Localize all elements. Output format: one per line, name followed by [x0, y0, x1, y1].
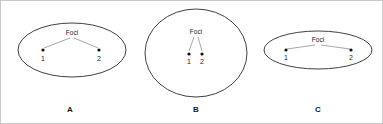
- leader-line-a-1: [44, 38, 70, 48]
- panel-b: Foci 1 2 B: [145, 9, 247, 114]
- foci-label-a: Foci: [66, 29, 78, 36]
- focus-dot-a-2: [97, 48, 100, 51]
- panel-c: Foci 1 2 C: [264, 31, 372, 114]
- focus-number-c-2: 2: [349, 54, 353, 61]
- focus-number-b-2: 2: [200, 58, 204, 65]
- focus-number-c-1: 1: [284, 54, 288, 61]
- panel-a: Foci 1 2 A: [18, 23, 126, 114]
- focus-dot-b-2: [200, 52, 203, 55]
- focus-number-a-2: 2: [97, 55, 101, 62]
- focus-dot-a-1: [41, 48, 44, 51]
- leader-line-c-2: [321, 45, 350, 49]
- focus-dot-b-1: [187, 52, 190, 55]
- foci-label-c: Foci: [312, 36, 324, 43]
- leader-line-c-1: [287, 45, 315, 49]
- panel-caption-c: C: [315, 105, 321, 114]
- foci-label-b: Foci: [190, 28, 202, 35]
- focus-dot-c-1: [284, 48, 287, 51]
- focus-number-a-1: 1: [41, 55, 45, 62]
- leader-line-a-2: [74, 38, 98, 48]
- ellipse-outline-b: [145, 9, 247, 97]
- diagram-canvas: Foci 1 2 A Foci 1 2 B Foci 1 2 C: [0, 0, 383, 124]
- panel-caption-a: A: [67, 105, 73, 114]
- leader-line-b-2: [198, 37, 202, 51]
- focus-number-b-1: 1: [187, 58, 191, 65]
- focus-dot-c-2: [349, 48, 352, 51]
- panel-caption-b: B: [193, 105, 199, 114]
- ellipse-foci-diagram: Foci 1 2 A Foci 1 2 B Foci 1 2 C: [0, 0, 383, 124]
- leader-line-b-1: [189, 37, 194, 51]
